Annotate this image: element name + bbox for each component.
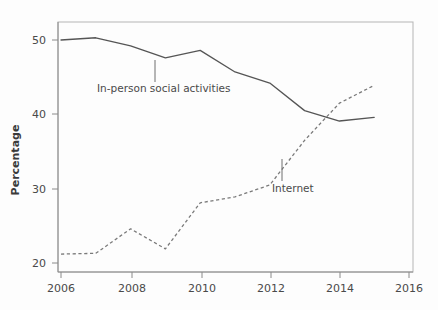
series-line-in-person-social-activities [61, 38, 374, 121]
y-tick-label-30: 30 [32, 183, 46, 196]
x-tick-label-2016: 2016 [395, 282, 423, 295]
x-tick-label-2008: 2008 [118, 282, 146, 295]
x-tick-label-2010: 2010 [188, 282, 216, 295]
x-tick-group [61, 272, 409, 278]
annotation-label-internet: Internet [272, 182, 314, 194]
series-line-internet [61, 85, 374, 254]
x-tick-label-2012: 2012 [257, 282, 285, 295]
y-axis-title: Percentage [9, 125, 22, 196]
line-chart: 50 40 30 20 2006 2008 2010 2012 2014 201… [0, 0, 438, 310]
plot-area-frame [58, 22, 413, 272]
annotation-label-in-person-social-activities: In-person social activities [97, 82, 230, 94]
y-tick-label-40: 40 [32, 108, 46, 121]
x-tick-label-2006: 2006 [47, 282, 75, 295]
y-tick-group [52, 40, 58, 263]
chart-root: 50 40 30 20 2006 2008 2010 2012 2014 201… [0, 0, 438, 310]
y-tick-label-50: 50 [32, 34, 46, 47]
y-tick-label-20: 20 [32, 257, 46, 270]
x-tick-label-2014: 2014 [326, 282, 354, 295]
